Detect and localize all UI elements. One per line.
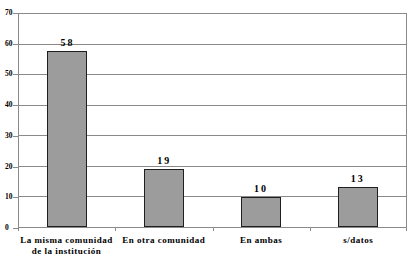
bar [144,169,184,227]
x-tick-mark [213,228,214,231]
y-tick-mark [13,197,18,198]
y-tick-mark [13,13,18,14]
y-tick-mark [13,105,18,106]
category-label-line: s/datos [310,235,407,246]
bar-group: 58191013 [19,14,406,227]
y-axis-label: 10 [5,193,13,201]
bar-value-label: 13 [309,173,406,184]
bar [47,51,87,227]
y-axis-label: 70 [5,9,13,17]
bar [338,187,378,227]
category-cell: 10 [213,14,310,227]
x-tick-mark [310,228,311,231]
bar-value-label: 19 [116,155,213,166]
y-axis-label: 50 [5,70,13,78]
category-label: En ambas [213,235,310,246]
category-label-line: En ambas [213,235,310,246]
y-axis-label: 30 [5,132,13,140]
category-label-line: La misma comunidad [18,235,115,246]
x-tick-mark [18,228,19,231]
y-tick-mark [13,44,18,45]
category-label: s/datos [310,235,407,246]
y-tick-mark [13,136,18,137]
y-axis-label: 0 [5,224,9,232]
x-tick-mark [115,228,116,231]
bar-value-label: 58 [19,37,116,48]
bar [241,197,281,227]
y-tick-mark [13,74,18,75]
bar-chart: 58191013 010203040506070 La misma comuni… [0,0,413,258]
bar-value-label: 10 [213,183,310,194]
category-label: La misma comunidadde la institución [18,235,115,257]
y-axis-label: 20 [5,163,13,171]
category-label-line: En otra comunidad [115,235,212,246]
x-axis-labels: La misma comunidadde la instituciónEn ot… [18,235,407,257]
plot-area: 58191013 [18,13,407,228]
y-axis-label: 40 [5,101,13,109]
category-label: En otra comunidad [115,235,212,246]
y-axis-label: 60 [5,40,13,48]
category-cell: 58 [19,14,116,227]
category-label-line: de la institución [18,246,115,257]
category-cell: 19 [116,14,213,227]
category-cell: 13 [309,14,406,227]
x-tick-mark [406,228,407,231]
y-tick-mark [13,167,18,168]
